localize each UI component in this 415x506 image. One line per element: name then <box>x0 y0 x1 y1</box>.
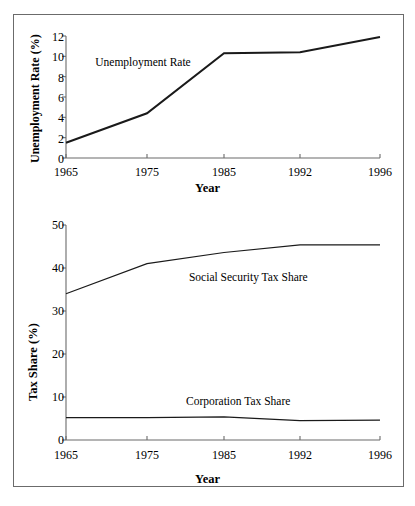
unemployment-ytick-6: 6 <box>42 91 64 106</box>
tax-share-xtick-1996: 1996 <box>357 448 403 463</box>
tax-share-ytick-30: 30 <box>36 304 64 319</box>
tax-share-xtick-1975: 1975 <box>124 448 170 463</box>
figure-container: Unemployment Rate (%) Year Unemployment … <box>0 0 415 506</box>
unemployment-x-axis-label: Year <box>0 181 415 196</box>
social-security-tax-share-annotation: Social Security Tax Share <box>189 271 308 283</box>
unemployment-ytick-2: 2 <box>42 132 64 147</box>
corporation-tax-share-annotation: Corporation Tax Share <box>186 395 290 407</box>
unemployment-y-axis-label: Unemployment Rate (%) <box>28 34 43 163</box>
unemployment-ytick-10: 10 <box>42 50 64 65</box>
unemployment-ytick-8: 8 <box>42 71 64 86</box>
unemployment-xtick-1996: 1996 <box>357 165 403 180</box>
tax-share-xtick-1992: 1992 <box>277 448 323 463</box>
tax-share-xtick-1965: 1965 <box>43 448 89 463</box>
tax-share-ytick-10: 10 <box>36 390 64 405</box>
tax-share-ytick-50: 50 <box>36 218 64 233</box>
unemployment-series-annotation: Unemployment Rate <box>95 56 191 68</box>
tax-share-xtick-1985: 1985 <box>201 448 247 463</box>
unemployment-xtick-1985: 1985 <box>201 165 247 180</box>
tax-share-ytick-20: 20 <box>36 347 64 362</box>
chart-panel-tax-share: Tax Share (%) Year Social Security Tax S… <box>0 205 415 505</box>
unemployment-xtick-1992: 1992 <box>277 165 323 180</box>
unemployment-ytick-4: 4 <box>42 111 64 126</box>
chart-panel-unemployment: Unemployment Rate (%) Year Unemployment … <box>0 0 415 210</box>
tax-share-ytick-40: 40 <box>36 261 64 276</box>
unemployment-xtick-1975: 1975 <box>124 165 170 180</box>
tax-share-x-axis-label: Year <box>0 472 415 487</box>
tax-share-ytick-0: 0 <box>36 433 64 448</box>
unemployment-ytick-12: 12 <box>42 30 64 45</box>
unemployment-xtick-1965: 1965 <box>43 165 89 180</box>
